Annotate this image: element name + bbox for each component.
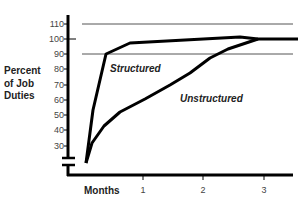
- series-label-structured: Structured: [110, 63, 161, 74]
- x-tick-label: 1: [133, 185, 153, 195]
- y-tick-marks: [64, 24, 76, 146]
- y-tick-label: 60: [46, 95, 64, 105]
- series-label-unstructured: Unstructured: [180, 93, 243, 104]
- x-axis-label: Months: [84, 185, 120, 196]
- y-tick-label: 80: [46, 64, 64, 74]
- y-tick-label: 90: [46, 49, 64, 59]
- y-tick-label: 50: [46, 110, 64, 120]
- y-tick-label: 110: [46, 19, 64, 29]
- y-tick-label: 70: [46, 80, 64, 90]
- y-tick-label: 100: [46, 34, 64, 44]
- x-tick-label: 3: [254, 185, 274, 195]
- x-tick-label: 2: [193, 185, 213, 195]
- y-tick-label: 40: [46, 125, 64, 135]
- y-tick-label: 30: [46, 141, 64, 151]
- learning-curve-chart: Percent of Job Duties 110 100 90 80 70 6…: [0, 0, 307, 205]
